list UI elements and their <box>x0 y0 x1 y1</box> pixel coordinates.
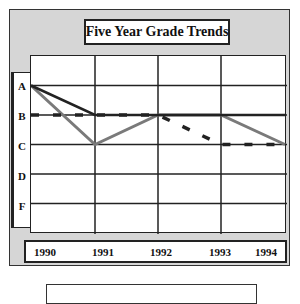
line-chart <box>31 56 287 234</box>
y-label-b: B <box>14 110 30 122</box>
x-label-1994: 1994 <box>255 246 277 258</box>
x-label-1991: 1991 <box>92 246 114 258</box>
x-label-1993: 1993 <box>209 246 231 258</box>
x-axis-label-box: 1990 1991 1992 1993 1994 <box>24 240 287 263</box>
x-label-1990: 1990 <box>34 246 56 258</box>
y-label-d: D <box>14 170 30 182</box>
y-label-a: A <box>14 80 30 92</box>
y-label-f: F <box>14 200 30 212</box>
chart-title-box: Five Year Grade Trends <box>84 19 230 45</box>
plot-area <box>30 55 286 233</box>
y-label-c: C <box>14 140 30 152</box>
y-axis-label-box: A B C D F <box>11 72 31 228</box>
legend-box <box>46 284 257 304</box>
chart-title: Five Year Grade Trends <box>86 24 229 40</box>
x-label-1992: 1992 <box>150 246 172 258</box>
